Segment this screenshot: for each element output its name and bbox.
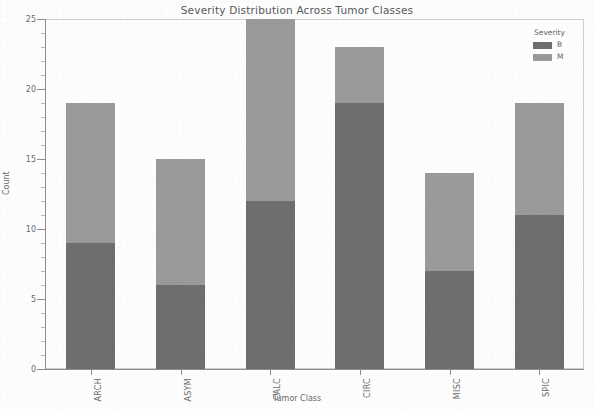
- y-tick-minor: [41, 117, 45, 118]
- y-tick: [37, 229, 45, 230]
- y-tick-label: 10: [12, 225, 36, 234]
- bar-segment-m[interactable]: [425, 173, 474, 271]
- y-tick-minor: [41, 187, 45, 188]
- y-tick-minor: [41, 327, 45, 328]
- x-tick: [450, 370, 451, 375]
- x-tick-label-arch: ARCH: [94, 378, 103, 401]
- bar-segment-m[interactable]: [156, 159, 205, 285]
- y-tick-minor: [41, 33, 45, 34]
- x-tick-label-asym: ASYM: [184, 378, 193, 402]
- chart-figure: Severity Distribution Across Tumor Class…: [0, 0, 594, 409]
- y-tick-minor: [41, 75, 45, 76]
- bar-segment-b[interactable]: [425, 271, 474, 369]
- bar-segment-m[interactable]: [246, 19, 295, 201]
- legend-label: M: [557, 53, 563, 61]
- y-tick-minor: [41, 201, 45, 202]
- y-tick-minor: [41, 103, 45, 104]
- y-tick-minor: [41, 131, 45, 132]
- bar-segment-b[interactable]: [156, 285, 205, 369]
- y-tick-minor: [41, 341, 45, 342]
- x-tick: [181, 370, 182, 375]
- x-axis-title: Tumor Class: [0, 394, 594, 403]
- bar-stack[interactable]: [246, 19, 295, 369]
- legend-entries: BM: [533, 40, 589, 62]
- x-tick-label-circ: CIRC: [363, 378, 372, 398]
- y-tick-minor: [41, 257, 45, 258]
- x-tick-label-misc: MISC: [453, 378, 462, 399]
- x-tick-label-calc: CALC: [273, 378, 282, 400]
- y-axis-title: Count: [2, 171, 11, 195]
- legend-swatch: [533, 42, 552, 49]
- bar-segment-b[interactable]: [66, 243, 115, 369]
- y-tick-minor: [41, 313, 45, 314]
- legend-swatch: [533, 54, 552, 61]
- y-tick-label: 25: [12, 15, 36, 24]
- y-tick-minor: [41, 145, 45, 146]
- y-tick-minor: [41, 271, 45, 272]
- bar-segment-m[interactable]: [515, 103, 564, 215]
- y-tick-label: 5: [12, 295, 36, 304]
- y-tick-label: 0: [12, 365, 36, 374]
- y-tick-label: 15: [12, 155, 36, 164]
- y-tick: [37, 89, 45, 90]
- bar-stack[interactable]: [335, 47, 384, 369]
- y-tick-minor: [41, 355, 45, 356]
- bar-segment-b[interactable]: [246, 201, 295, 369]
- y-tick: [37, 159, 45, 160]
- x-tick: [270, 370, 271, 375]
- y-tick: [37, 19, 45, 20]
- x-tick: [360, 370, 361, 375]
- bar-segment-b[interactable]: [335, 103, 384, 369]
- x-tick: [91, 370, 92, 375]
- y-tick-minor: [41, 47, 45, 48]
- bar-stack[interactable]: [425, 173, 474, 369]
- bar-segment-m[interactable]: [66, 103, 115, 243]
- y-tick-minor: [41, 173, 45, 174]
- y-tick-minor: [41, 61, 45, 62]
- x-tick: [539, 370, 540, 375]
- y-tick: [37, 369, 45, 370]
- y-tick-label: 20: [12, 85, 36, 94]
- bar-stack[interactable]: [156, 159, 205, 369]
- y-tick-minor: [41, 285, 45, 286]
- legend-item-m[interactable]: M: [533, 52, 589, 62]
- legend-title: Severity: [533, 28, 589, 37]
- bar-segment-b[interactable]: [515, 215, 564, 369]
- legend-label: B: [557, 41, 562, 49]
- x-axis-spine: [45, 369, 584, 370]
- y-tick-minor: [41, 215, 45, 216]
- y-tick: [37, 299, 45, 300]
- bar-stack[interactable]: [515, 103, 564, 369]
- chart-legend: Severity BM: [533, 28, 589, 64]
- x-tick-label-spic: SPIC: [542, 378, 551, 397]
- bar-segment-m[interactable]: [335, 47, 384, 103]
- bars-layer: [46, 19, 584, 369]
- bar-stack[interactable]: [66, 103, 115, 369]
- legend-item-b[interactable]: B: [533, 40, 589, 50]
- chart-title: Severity Distribution Across Tumor Class…: [0, 4, 594, 16]
- y-tick-minor: [41, 243, 45, 244]
